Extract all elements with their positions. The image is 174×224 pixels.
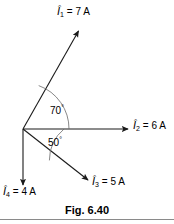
vector-label-i2: Î2 = 6 A — [133, 120, 166, 132]
vector-value-i4: 4 A — [21, 186, 35, 197]
equals-sign-i4: = — [13, 186, 19, 197]
vector-value-i2: 6 A — [151, 120, 165, 131]
angle-value-50: 50 — [48, 137, 59, 148]
vector-label-i3: Î3 = 5 A — [92, 176, 125, 188]
equals-sign-i2: = — [143, 120, 149, 131]
vector-value-i3: 5 A — [110, 176, 124, 187]
angle-value-70: 70 — [50, 105, 61, 116]
vector-label-i1: Î1 = 7 A — [57, 6, 90, 18]
bottom-divider — [0, 219, 174, 220]
equals-sign-i1: = — [67, 6, 73, 17]
vector-subscript-i3: 3 — [95, 181, 99, 188]
degree-symbol-50: ° — [59, 136, 62, 143]
vector-subscript-i1: 1 — [60, 11, 64, 18]
vector-subscript-i4: 4 — [6, 191, 10, 198]
figure-caption: Fig. 6.40 — [0, 204, 174, 216]
figure-container: Î1 = 7 A Î2 = 6 A Î3 = 5 A Î4 = 4 A 70° … — [0, 0, 174, 224]
vector-label-i4: Î4 = 4 A — [3, 186, 36, 198]
angle-label-50: 50° — [48, 136, 62, 148]
degree-symbol-70: ° — [61, 104, 64, 111]
equals-sign-i3: = — [102, 176, 108, 187]
vector-value-i1: 7 A — [75, 6, 89, 17]
angle-label-70: 70° — [50, 104, 64, 116]
vector-subscript-i2: 2 — [136, 125, 140, 132]
